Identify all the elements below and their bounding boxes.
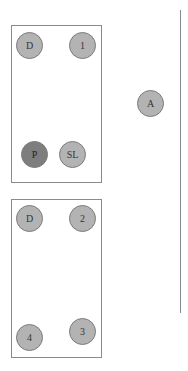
node-p: P: [21, 141, 48, 168]
node-3: 3: [69, 318, 96, 345]
node-sl: SL: [59, 141, 86, 168]
node-a: A: [137, 90, 164, 117]
node-4: 4: [16, 324, 43, 351]
node-d-table-2: D: [16, 205, 43, 232]
node-1: 1: [69, 32, 96, 59]
node-2: 2: [69, 205, 96, 232]
node-d-table-1: D: [16, 32, 43, 59]
divider-line: [180, 10, 181, 313]
